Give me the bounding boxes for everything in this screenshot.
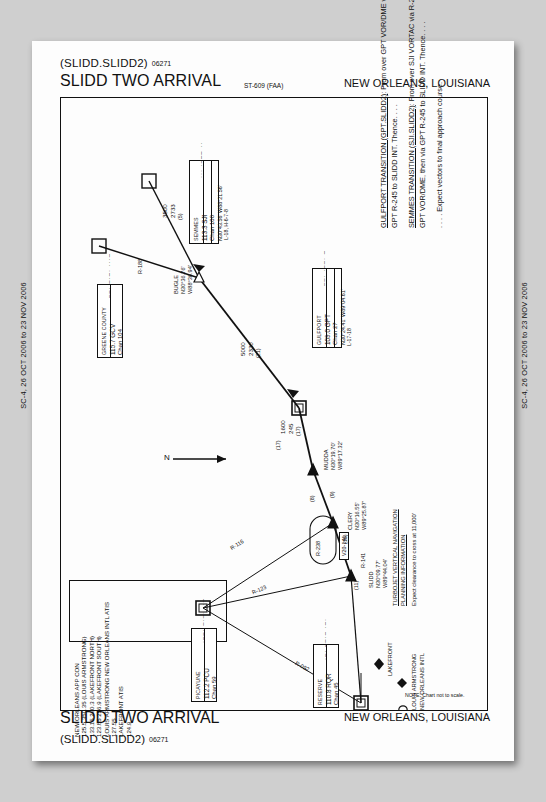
segment-marker-17: (17) — [275, 440, 282, 450]
airport-label-line1: LOUIS ARMSTRONG — [411, 653, 419, 710]
waypoint-mudda: MUDDA N30°19.70' W89°17.32' — [323, 441, 344, 470]
waypoint-clery-lon: W89°25.87' — [361, 501, 368, 530]
transition-description-block: GULFPORT TRANSITION (GPT.SLIDD2): From o… — [379, 0, 453, 228]
navaid-semmes-lowalt: L-18, H-6-7-8 — [223, 209, 230, 240]
route-label-5000: 5000 — [239, 342, 246, 356]
airport-label-line2: NEW ORLEANS INTL — [419, 653, 427, 710]
navaid-semmes-freq: 113.3 SJI — [201, 214, 208, 241]
transition-2: . . . . Expect vectors to final approach… — [435, 0, 446, 228]
segment-marker-11: (11) — [353, 581, 360, 590]
plan-view-frame: GULFPORT TRANSITION (GPT.SLIDD2): From o… — [60, 97, 488, 711]
route-label-2330: 2330 — [247, 342, 254, 356]
gulfport-morse-icon: ––· ·––· – — [321, 250, 328, 286]
waypoint-bugle-lon: W88°36.94' — [187, 265, 194, 294]
header-procedure-ident: (SLIDD.SLIDD2)06271 — [60, 57, 171, 69]
navaid-greene-freq: 115.7 GCV — [109, 324, 116, 355]
airport-label-msy: LOUIS ARMSTRONG NEW ORLEANS INTL — [411, 653, 426, 710]
navaid-greene-chan: Chan 104 — [117, 329, 124, 355]
header-ident-text: (SLIDD.SLIDD2) — [60, 57, 148, 69]
side-bar-right-date: SC-4, 26 OCT 2006 to 23 NOV 2006 — [520, 282, 529, 409]
waypoint-mudda-lat: N30°19.70' — [330, 441, 337, 470]
approach-plate-sheet: (SLIDD.SLIDD2)06271 SLIDD TWO ARRIVAL ST… — [32, 41, 514, 761]
waypoint-clery: CLERY N30°16.55' W89°25.87' — [347, 501, 368, 530]
header-procedure-title: SLIDD TWO ARRIVAL — [60, 72, 221, 90]
waypoint-bugle: BUGLE N30°36.76' W88°36.94' — [173, 265, 194, 294]
vnav-planning-note: TURBOJET VERTICAL NAVIGATION PLANNING IN… — [391, 509, 418, 606]
north-arrow-label: N — [164, 454, 170, 461]
header-st-number: ST-609 (FAA) — [244, 82, 283, 89]
waypoint-slidd-lon: W89°44.04' — [382, 559, 389, 588]
segment-marker-8: (8) — [309, 495, 316, 502]
waypoint-mudda-lon: W89°17.32' — [337, 441, 344, 470]
navaid-gulfport-lowalt: L-17-18 — [346, 328, 353, 346]
route-label-5000-dist: (21) — [255, 348, 262, 358]
header-amendment: 06271 — [152, 60, 171, 67]
navaid-gulfport-chan: Chan 27 — [332, 322, 339, 345]
navaid-picayune-freq: 112.2 PCU — [203, 668, 210, 699]
route-label-r141: R-141 — [360, 553, 367, 568]
semmes-morse-icon: ··· ·––– ·· — [198, 142, 205, 178]
waypoint-bugle-lat: N30°36.76' — [180, 265, 187, 294]
side-bar-left-date: SC-4, 26 OCT 2006 to 23 NOV 2006 — [19, 282, 28, 409]
chart-page: (SLIDD.SLIDD2)06271 SLIDD TWO ARRIVAL ST… — [0, 0, 546, 802]
transition-0-name: GULFPORT TRANSITION (GPT.SLIDD2) — [379, 94, 388, 228]
vnav-body: Expect clearance to cross at 11,000' — [410, 509, 418, 606]
navaid-gulfport-name: GULFPORT — [316, 315, 323, 345]
navaid-reserve-chan: Chan 45 — [333, 682, 340, 705]
navaid-greene-name: GREENE COUNTY — [101, 307, 108, 355]
transition-1: SEMMES TRANSITION (SJI.SLIDD2): From ove… — [407, 0, 428, 228]
waypoint-slidd: SLIDD N30°09.77' W89°44.04' — [368, 559, 389, 588]
route-label-3500-dist: (5) — [177, 213, 184, 220]
navaid-semmes-chan: Chan 100 — [209, 215, 216, 241]
waypoint-bugle-name: BUGLE — [173, 265, 180, 294]
footer-city-state: NEW ORLEANS, LOUISIANA — [344, 711, 490, 723]
footer-ident-text: (SLIDD.SLIDD2) — [60, 733, 145, 745]
waypoint-clery-name: CLERY — [347, 501, 354, 530]
transition-2-text: . . . . Expect vectors to final approach… — [435, 82, 444, 228]
route-label-r188: R-188 — [137, 259, 144, 274]
route-label-245: 245 — [287, 424, 294, 434]
route-label-2733: 2733 — [169, 204, 176, 218]
segment-marker-16: (16) — [342, 534, 349, 544]
waypoint-slidd-lat: N30°09.77' — [375, 559, 382, 588]
navaid-reserve-name: RESERVE — [317, 679, 324, 705]
navaid-picayune-chan: Chan 59 — [211, 676, 218, 699]
scale-note: NOTE: Chart not to scale. — [405, 692, 464, 698]
transition-1-name: SEMMES TRANSITION (SJI.SLIDD2) — [407, 105, 416, 228]
route-label-r238: R-238 — [315, 541, 322, 556]
navaid-picayune-name: PICAYUNE — [195, 671, 202, 699]
waypoint-mudda-name: MUDDA — [323, 441, 330, 470]
footer-procedure-ident: (SLIDD.SLIDD2)06271 — [60, 733, 168, 745]
waypoint-slidd-name: SLIDD — [368, 559, 375, 588]
navaid-semmes-name: SEMMES — [193, 217, 200, 241]
footer-procedure-title: SLIDD TWO ARRIVAL — [60, 709, 219, 727]
vnav-title-line1: TURBOJET VERTICAL NAVIGATION — [391, 509, 399, 606]
vnav-title-line2: PLANNING INFORMATION — [399, 509, 407, 606]
picayune-morse-icon: ·––· –·–· ··– — [200, 598, 207, 643]
navaid-gulfport-freq: 109.0 GPT — [324, 314, 331, 345]
reserve-morse-icon: ·–· ––·– ·–· — [322, 618, 329, 660]
transition-0: GULFPORT TRANSITION (GPT.SLIDD2): From o… — [379, 0, 400, 228]
footer-amendment: 06271 — [149, 736, 168, 743]
segment-marker-9: (9) — [329, 491, 336, 498]
greene-morse-icon: ––· –·–· ···– — [106, 253, 113, 298]
waypoint-clery-lat: N30°16.55' — [354, 501, 361, 530]
route-label-1600: 1600 — [279, 420, 286, 434]
navaid-reserve-freq: 110.8 RQR — [325, 674, 332, 706]
airport-label-lakefront: LAKEFRONT — [387, 642, 394, 676]
route-label-3500: 3500 — [161, 204, 168, 218]
route-label-1600-dist: (17) — [295, 426, 302, 436]
